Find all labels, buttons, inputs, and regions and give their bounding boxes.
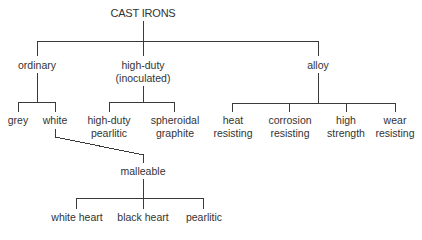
node-malleable: malleable — [121, 165, 166, 178]
node-corrosion-line2: resisting — [268, 127, 311, 140]
node-high-duty-line1: high-duty — [116, 59, 171, 72]
node-high-strength: high strength — [327, 114, 365, 139]
node-strength-line2: strength — [327, 127, 365, 140]
node-black-heart: black heart — [117, 211, 168, 224]
node-white-heart: white heart — [51, 211, 102, 224]
node-wear-line2: resisting — [375, 127, 414, 140]
node-grey: grey — [8, 114, 28, 127]
node-wear-resisting: wear resisting — [375, 114, 414, 139]
node-wear-line1: wear — [375, 114, 414, 127]
node-pearlitic: pearlitic — [186, 211, 222, 224]
node-hd-pearlitic-line2: pearlitic — [87, 127, 130, 140]
node-strength-line1: high — [327, 114, 365, 127]
node-cast-irons: CAST IRONS — [110, 7, 175, 20]
node-spheroidal-line2: graphite — [151, 127, 199, 140]
node-spheroidal-graphite: spheroidal graphite — [151, 114, 199, 139]
node-heat-line2: resisting — [213, 127, 252, 140]
node-high-duty-inoculated: high-duty (inoculated) — [116, 59, 171, 84]
node-white: white — [43, 114, 68, 127]
node-spheroidal-line1: spheroidal — [151, 114, 199, 127]
node-corrosion-line1: corrosion — [268, 114, 311, 127]
node-corrosion-resisting: corrosion resisting — [268, 114, 311, 139]
node-alloy: alloy — [307, 59, 329, 72]
node-ordinary: ordinary — [18, 59, 56, 72]
node-heat-resisting: heat resisting — [213, 114, 252, 139]
node-heat-line1: heat — [213, 114, 252, 127]
node-high-duty-pearlitic: high-duty pearlitic — [87, 114, 130, 139]
node-hd-pearlitic-line1: high-duty — [87, 114, 130, 127]
node-high-duty-line2: (inoculated) — [116, 72, 171, 85]
